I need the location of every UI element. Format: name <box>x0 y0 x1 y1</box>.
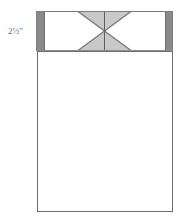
right-side-bar <box>165 12 173 51</box>
main-body-panel <box>38 52 173 212</box>
diagram-canvas: 2½" <box>0 0 189 221</box>
band-height-dimension-label: 2½" <box>8 26 38 37</box>
